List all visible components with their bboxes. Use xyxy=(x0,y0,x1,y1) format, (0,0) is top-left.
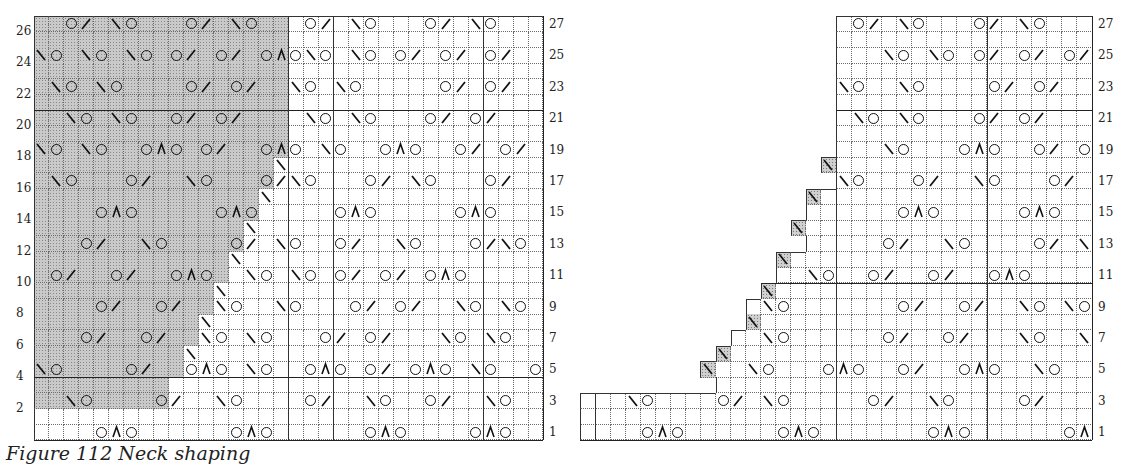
ssk-icon xyxy=(453,299,468,315)
ssk-icon xyxy=(244,220,259,236)
chart-cell xyxy=(1062,346,1078,362)
yarn-over-icon xyxy=(972,110,987,126)
chart-cell xyxy=(926,283,942,299)
chart-cell xyxy=(528,424,543,440)
chart-cell xyxy=(229,95,244,111)
chart-cell xyxy=(348,314,363,330)
chart-cell xyxy=(154,220,169,236)
chart-cell xyxy=(184,314,199,330)
chart-cell xyxy=(866,330,882,346)
row-number: 23 xyxy=(549,80,564,94)
k2tog-icon xyxy=(911,361,926,377)
chart-cell xyxy=(139,346,154,362)
chart-cell xyxy=(139,95,154,111)
yarn-over-icon xyxy=(64,79,79,95)
chart-cell xyxy=(199,110,214,126)
chart-cell xyxy=(244,126,259,142)
chart-cell xyxy=(513,95,528,111)
yarn-over-icon xyxy=(318,47,333,63)
chart-cell xyxy=(776,346,792,362)
yarn-over-icon xyxy=(438,47,453,63)
yarn-over-icon xyxy=(483,79,498,95)
chart-cell xyxy=(318,299,333,315)
chart-cell xyxy=(1047,126,1063,142)
yarn-over-icon xyxy=(1017,393,1032,409)
chart-cell xyxy=(700,409,716,425)
yarn-over-icon xyxy=(408,236,423,252)
yarn-over-icon xyxy=(941,330,956,346)
yarn-over-icon xyxy=(378,142,393,158)
chart-cell xyxy=(851,32,867,48)
double-decrease-icon xyxy=(836,361,851,377)
chart-cell xyxy=(911,47,927,63)
chart-cell xyxy=(685,424,701,440)
yarn-over-icon xyxy=(244,16,259,32)
yarn-over-icon xyxy=(423,393,438,409)
pattern-repeat-line xyxy=(288,16,289,440)
yarn-over-icon xyxy=(468,110,483,126)
chart-cell xyxy=(1047,220,1063,236)
chart-cell xyxy=(896,393,912,409)
chart-cell xyxy=(64,361,79,377)
chart-cell xyxy=(438,409,453,425)
chart-cell xyxy=(625,409,641,425)
chart-cell xyxy=(987,32,1003,48)
chart-cell xyxy=(528,126,543,142)
chart-cell xyxy=(79,157,94,173)
chart-cell xyxy=(318,409,333,425)
chart-cell xyxy=(987,377,1003,393)
ssk-icon xyxy=(438,330,453,346)
chart-cell xyxy=(169,79,184,95)
pattern-repeat-line xyxy=(595,393,596,440)
chart-cell xyxy=(378,16,393,32)
chart-cell xyxy=(1002,47,1018,63)
section-divider xyxy=(836,110,1092,111)
chart-cell xyxy=(1077,157,1093,173)
yarn-over-icon xyxy=(911,110,926,126)
chart-cell xyxy=(941,283,957,299)
chart-cell xyxy=(154,173,169,189)
chart-cell xyxy=(244,314,259,330)
chart-cell xyxy=(987,409,1003,425)
chart-cell xyxy=(836,189,852,205)
yarn-over-icon xyxy=(483,204,498,220)
chart-cell xyxy=(896,424,912,440)
chart-cell xyxy=(821,189,837,205)
yarn-over-icon xyxy=(866,267,881,283)
chart-cell xyxy=(483,220,498,236)
chart-cell xyxy=(393,79,408,95)
chart-cell xyxy=(746,409,762,425)
chart-cell xyxy=(79,126,94,142)
chart-cell xyxy=(169,283,184,299)
chart-cell xyxy=(776,267,792,283)
ssk-icon xyxy=(124,47,139,63)
chart-cell xyxy=(866,157,882,173)
yarn-over-icon xyxy=(513,299,528,315)
chart-cell xyxy=(1077,189,1093,205)
chart-cell xyxy=(423,236,438,252)
chart-cell xyxy=(498,189,513,205)
chart-cell xyxy=(896,314,912,330)
chart-cell xyxy=(438,236,453,252)
chart-cell xyxy=(393,220,408,236)
chart-cell xyxy=(94,267,109,283)
chart-cell xyxy=(214,63,229,79)
chart-cell xyxy=(378,236,393,252)
chart-cell xyxy=(423,330,438,346)
chart-cell xyxy=(288,393,303,409)
chart-cell xyxy=(363,346,378,362)
chart-cell xyxy=(214,236,229,252)
ssk-icon xyxy=(806,267,821,283)
chart-cell xyxy=(987,252,1003,268)
chart-cell xyxy=(1077,314,1093,330)
chart-cell xyxy=(468,189,483,205)
chart-cell xyxy=(64,252,79,268)
chart-cell xyxy=(184,189,199,205)
chart-cell xyxy=(169,32,184,48)
chart-cell xyxy=(866,424,882,440)
chart-cell xyxy=(229,32,244,48)
chart-cell xyxy=(199,126,214,142)
pattern-repeat-line xyxy=(333,16,334,440)
chart-cell xyxy=(1047,283,1063,299)
chart-cell xyxy=(94,16,109,32)
